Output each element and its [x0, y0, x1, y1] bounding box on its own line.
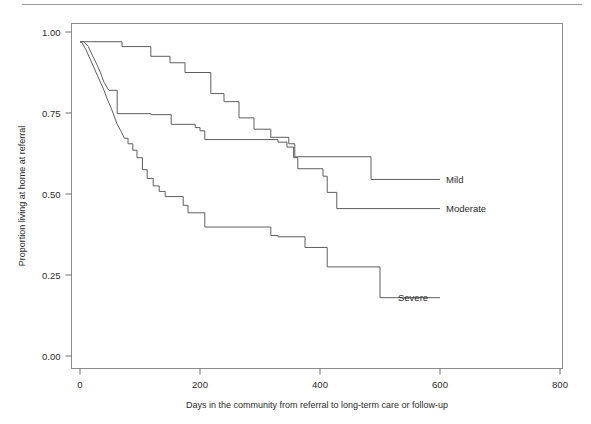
curve-severe — [80, 42, 440, 298]
x-tick-label-0: 0 — [77, 379, 82, 390]
x-axis-tick-labels: 0200400600800 — [77, 379, 568, 390]
y-tick-label-3: 0.75 — [42, 108, 61, 119]
series-labels: MildModerateSevere — [398, 174, 486, 303]
series-leader-lines — [434, 179, 440, 208]
y-axis-ticks — [66, 32, 72, 356]
x-tick-label-1: 200 — [192, 379, 208, 390]
y-tick-label-4: 1.00 — [42, 27, 61, 38]
series-label-severe: Severe — [398, 292, 428, 303]
x-tick-label-3: 600 — [432, 379, 448, 390]
series-label-moderate: Moderate — [446, 203, 486, 214]
curve-mild — [80, 42, 434, 180]
y-axis-tick-labels: 0.000.250.500.751.00 — [42, 27, 61, 362]
x-axis-title: Days in the community from referral to l… — [186, 400, 448, 410]
curve-moderate — [80, 42, 434, 209]
series-curves — [80, 42, 440, 298]
figure-container: 0.000.250.500.751.00 0200400600800 MildM… — [0, 0, 591, 424]
y-tick-label-2: 0.50 — [42, 189, 61, 200]
x-tick-label-4: 800 — [552, 379, 568, 390]
survival-curve-chart: 0.000.250.500.751.00 0200400600800 MildM… — [0, 0, 591, 424]
series-label-mild: Mild — [446, 174, 463, 185]
y-axis-title: Proportion living at home at referral — [17, 126, 27, 267]
plot-frame — [72, 24, 563, 369]
x-axis-ticks — [80, 369, 560, 375]
x-tick-label-2: 400 — [312, 379, 328, 390]
y-tick-label-0: 0.00 — [42, 351, 61, 362]
y-tick-label-1: 0.25 — [42, 270, 61, 281]
